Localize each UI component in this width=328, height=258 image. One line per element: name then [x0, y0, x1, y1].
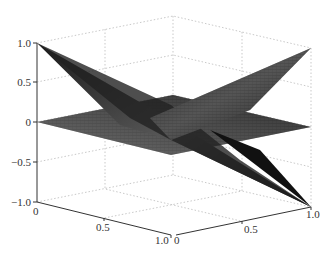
svg-text:1.0: 1.0 — [306, 208, 320, 220]
z-tick-labels: 1.0 0.5 0 −0.5 −1.0 — [11, 37, 31, 208]
svg-text:0: 0 — [33, 205, 39, 217]
surface-plot: 1.0 0.5 0 −0.5 −1.0 0 0.5 1.0 0 0.5 1.0 — [0, 0, 328, 258]
svg-text:0.5: 0.5 — [96, 221, 110, 233]
svg-text:0: 0 — [174, 234, 180, 246]
svg-text:1.0: 1.0 — [155, 234, 169, 246]
svg-text:1.0: 1.0 — [17, 37, 31, 49]
y-tick-labels: 0 0.5 1.0 — [174, 208, 320, 246]
svg-text:0.5: 0.5 — [17, 76, 31, 88]
svg-text:−0.5: −0.5 — [11, 156, 31, 168]
surface-sheets — [37, 43, 311, 207]
svg-text:−1.0: −1.0 — [11, 196, 31, 208]
svg-text:0.5: 0.5 — [244, 223, 258, 235]
svg-text:0: 0 — [26, 116, 32, 128]
plot-canvas: 1.0 0.5 0 −0.5 −1.0 0 0.5 1.0 0 0.5 1.0 — [0, 0, 328, 258]
x-tick-labels: 0 0.5 1.0 — [33, 205, 169, 246]
